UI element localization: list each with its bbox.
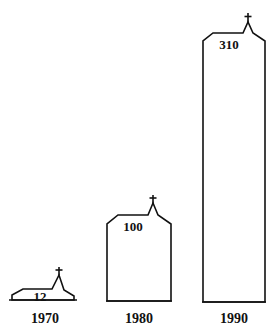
- church-bar-1990: [202, 13, 266, 302]
- value-label-1970: 12: [20, 290, 60, 304]
- category-label-1970: 1970: [15, 311, 75, 327]
- category-label-1990: 1990: [204, 311, 264, 327]
- church-bar-1980: [106, 195, 172, 301]
- value-label-1980: 100: [113, 220, 153, 234]
- value-label-1990: 310: [209, 38, 249, 52]
- category-label-1980: 1980: [109, 311, 169, 327]
